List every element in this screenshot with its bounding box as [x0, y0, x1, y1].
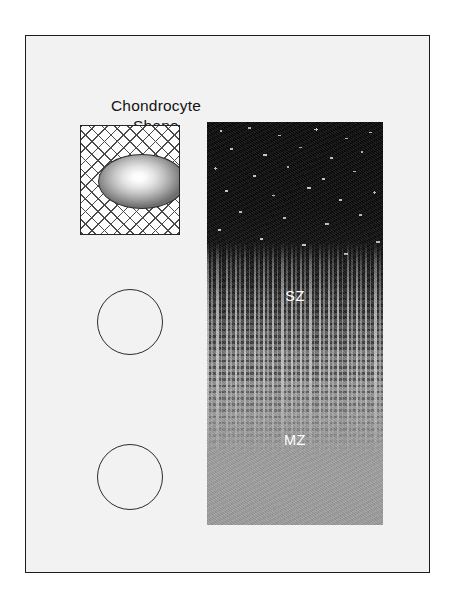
round-chondrocyte-sphere-middle	[97, 289, 163, 355]
histology-micrograph-control: SZ MZ DZ	[207, 122, 383, 525]
figure-root: Chondrocyte Shape Control SZ MZ DZ	[0, 0, 451, 601]
zone-label-sz: SZ	[207, 288, 383, 304]
flattened-chondrocyte-ellipse	[98, 154, 180, 209]
micrograph-grain-overlay	[207, 122, 383, 525]
zone-label-mz: MZ	[207, 432, 383, 448]
round-chondrocyte-sphere-deep	[97, 444, 163, 510]
chondrocyte-shape-cell-superficial	[80, 125, 180, 235]
column-title-line-1: Chondrocyte	[81, 96, 231, 116]
